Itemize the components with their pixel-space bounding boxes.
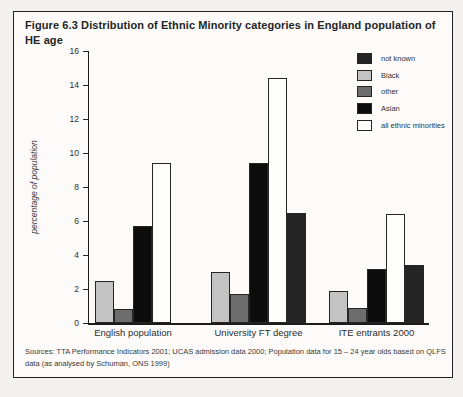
y-tick-mark [83, 255, 88, 256]
y-tick-label: 16 [57, 46, 79, 56]
y-tick-mark [83, 85, 88, 86]
legend-swatch-icon [357, 86, 372, 97]
y-tick-mark [83, 51, 88, 52]
bar-asian [249, 163, 268, 323]
y-tick-mark [83, 187, 88, 188]
x-category-label: ITE entrants 2000 [339, 327, 415, 338]
legend-label: all ethnic minorities [381, 121, 445, 130]
legend-item: all ethnic minorities [357, 117, 445, 134]
legend-swatch-icon [357, 70, 372, 81]
bar-all-ethnic-minorities [268, 78, 287, 323]
y-tick-label: 14 [57, 80, 79, 90]
legend-swatch-icon [357, 103, 372, 114]
legend-label: other [381, 87, 398, 96]
y-tick-mark [83, 119, 88, 120]
y-tick-label: 10 [57, 148, 79, 158]
y-tick-label: 2 [57, 284, 79, 294]
legend-swatch-icon [357, 120, 372, 131]
bar-not-known [405, 265, 424, 323]
y-axis [88, 51, 90, 323]
legend: not knownBlackotherAsianall ethnic minor… [357, 50, 445, 133]
y-tick-label: 8 [57, 182, 79, 192]
bar-not-known [287, 213, 306, 324]
sources-note: Sources: TTA Performance Indicators 2001… [25, 346, 449, 371]
y-tick-label: 0 [57, 318, 79, 328]
legend-swatch-icon [357, 53, 372, 64]
y-tick-label: 12 [57, 114, 79, 124]
x-category-label: University FT degree [215, 327, 303, 338]
legend-item: not known [357, 50, 445, 67]
bar-asian [367, 269, 386, 323]
y-tick-label: 4 [57, 250, 79, 260]
bar-all-ethnic-minorities [386, 214, 405, 323]
page: Figure 6.3 Distribution of Ethnic Minori… [0, 0, 463, 397]
bar-other [114, 309, 133, 323]
bar-black [329, 291, 348, 323]
y-tick-mark [83, 289, 88, 290]
legend-item: other [357, 83, 445, 100]
bar-asian [133, 226, 152, 323]
y-tick-mark [83, 323, 88, 324]
bar-all-ethnic-minorities [152, 163, 171, 323]
bar-black [95, 281, 114, 324]
legend-label: Black [381, 71, 399, 80]
y-tick-mark [83, 221, 88, 222]
bar-black [211, 272, 230, 323]
figure-box: Figure 6.3 Distribution of Ethnic Minori… [13, 11, 453, 378]
bar-other [230, 294, 249, 323]
legend-item: Black [357, 67, 445, 84]
bar-other [348, 308, 367, 323]
x-category-label: English population [94, 327, 172, 338]
legend-label: Asian [381, 104, 400, 113]
legend-label: not known [381, 54, 415, 63]
figure-title: Figure 6.3 Distribution of Ethnic Minori… [25, 18, 447, 48]
y-tick-label: 6 [57, 216, 79, 226]
y-tick-mark [83, 153, 88, 154]
x-axis [88, 323, 430, 325]
y-axis-title: percentage of population [29, 140, 39, 234]
legend-item: Asian [357, 100, 445, 117]
